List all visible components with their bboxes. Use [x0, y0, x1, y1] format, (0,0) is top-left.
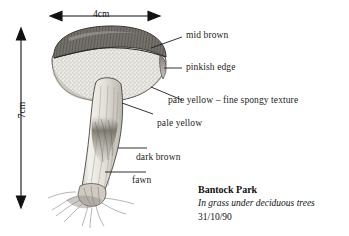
figure-sheet: 4cm 7cm mid brown pinkish edge pale yell…: [0, 0, 349, 236]
caption-habitat: In grass under deciduous trees: [198, 198, 315, 208]
label-mid-brown: mid brown: [186, 31, 228, 41]
dimension-height-label: 7cm: [17, 102, 27, 118]
dimension-width-label: 4cm: [93, 9, 109, 19]
caption-site: Bantock Park: [198, 184, 257, 195]
label-dark-brown: dark brown: [136, 153, 181, 163]
label-pale-yellow-spongy: pale yellow – fine spongy texture: [168, 96, 298, 106]
label-pinkish-edge: pinkish edge: [186, 63, 235, 73]
caption-date: 31/10/90: [198, 212, 232, 222]
leader-pale-yellow: [122, 103, 153, 114]
label-fawn: fawn: [132, 176, 151, 186]
label-pale-yellow: pale yellow: [157, 119, 202, 129]
